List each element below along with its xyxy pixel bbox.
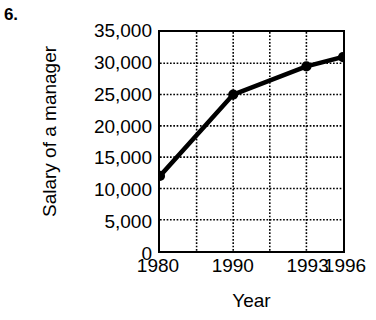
data-point-marker xyxy=(338,52,343,62)
y-tick-label: 35,000 xyxy=(56,21,152,40)
problem-number: 6. xyxy=(4,6,18,23)
chart-series-salary xyxy=(160,32,343,251)
data-point-marker xyxy=(228,89,238,99)
y-tick-label: 30,000 xyxy=(56,52,152,71)
x-tick-label: 1996 xyxy=(308,256,376,275)
y-tick-label: 10,000 xyxy=(56,180,152,199)
x-tick-label: 1990 xyxy=(196,256,270,275)
x-tick-label: 1980 xyxy=(121,256,195,275)
y-axis-tick-labels: 05,00010,00015,00020,00025,00030,00035,0… xyxy=(56,30,152,253)
y-tick-label: 15,000 xyxy=(56,148,152,167)
series-line xyxy=(160,57,343,176)
y-tick-label: 20,000 xyxy=(56,116,152,135)
y-tick-label: 5,000 xyxy=(56,212,152,231)
x-axis-tick-labels: 1980199019931996 xyxy=(0,256,376,282)
data-point-marker xyxy=(301,61,311,71)
x-axis-title: Year xyxy=(158,291,345,310)
y-tick-label: 25,000 xyxy=(56,84,152,103)
chart-plot-area xyxy=(158,30,345,253)
